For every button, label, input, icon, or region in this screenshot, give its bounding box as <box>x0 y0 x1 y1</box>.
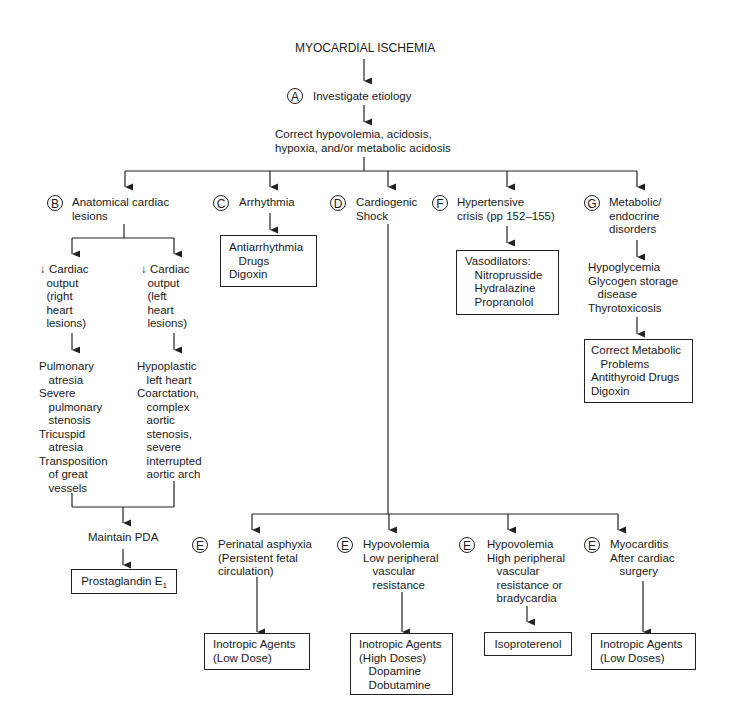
metabolic-treatment-box: Correct Metabolic Problems Antithyroid D… <box>584 339 693 403</box>
shock-type-2-label: Hypovolemia Low peripheral vascular resi… <box>363 538 438 592</box>
left-heart-output: ↓ Cardiac output (left heart lesions) <box>141 263 190 331</box>
step-a-label: Investigate etiology <box>313 90 411 104</box>
step-d-label: Cardiogenic Shock <box>356 196 417 223</box>
left-heart-lesions-list: Hypoplastic left heart Coarctation, comp… <box>137 360 202 482</box>
shock-type-3-label: Hypovolemia High peripheral vascular res… <box>487 538 565 606</box>
shock-type-4-label: Myocarditis After cardiac surgery <box>610 538 675 579</box>
shock-type-4-treatment: Inotropic Agents (Low Doses) <box>592 634 695 665</box>
right-heart-lesions-list: Pulmonary atresia Severe pulmonary steno… <box>39 360 108 495</box>
step-b-label: Anatomical cardiac lesions <box>72 196 169 223</box>
diagram-title: MYOCARDIAL ISCHEMIA <box>295 42 435 56</box>
vasodilators-text: Vasodilators: Nitroprusside Hydralazine … <box>457 251 558 309</box>
vasodilators-box: Vasodilators: Nitroprusside Hydralazine … <box>456 250 559 315</box>
step-g-label: Metabolic/ endocrine disorders <box>609 196 661 237</box>
correct-line-2: hypoxia, and/or metabolic acidosis <box>275 142 451 156</box>
shock-type-2-marker: E <box>337 537 353 553</box>
metabolic-treatment-text: Correct Metabolic Problems Antithyroid D… <box>585 340 692 398</box>
right-heart-output: ↓ Cardiac output (right heart lesions) <box>40 263 89 331</box>
shock-type-1-marker: E <box>192 537 208 553</box>
step-f-label: Hypertensive crisis (pp 152–155) <box>457 196 555 223</box>
shock-type-2-treatment-box: Inotropic Agents (High Doses) Dopamine D… <box>350 633 453 695</box>
maintain-pda: Maintain PDA <box>88 531 158 545</box>
step-f-marker: F <box>432 195 448 211</box>
step-d-marker: D <box>330 195 346 211</box>
shock-type-4-treatment-box: Inotropic Agents (Low Doses) <box>591 633 696 670</box>
shock-type-2-treatment: Inotropic Agents (High Doses) Dopamine D… <box>351 634 452 692</box>
shock-type-1-treatment: Inotropic Agents (Low Dose) <box>205 634 309 665</box>
correct-line-1: Correct hypovolemia, acidosis, <box>275 128 432 142</box>
metabolic-disorders-list: Hypoglycemia Glycogen storage disease Th… <box>588 261 678 315</box>
shock-type-3-marker: E <box>459 537 475 553</box>
step-b-marker: B <box>47 195 63 211</box>
step-g-marker: G <box>584 195 600 211</box>
shock-type-4-marker: E <box>584 537 600 553</box>
prostaglandin-box: Prostaglandin E1 <box>71 569 177 594</box>
shock-type-3-treatment: Isoproterenol <box>485 633 571 655</box>
step-c-marker: C <box>213 195 229 211</box>
prostaglandin-label: Prostaglandin E1 <box>72 570 176 597</box>
step-a-marker: A <box>287 88 303 104</box>
shock-type-3-treatment-box: Isoproterenol <box>484 632 572 656</box>
arrhythmia-treatment-box: Antiarrhythmia Drugs Digoxin <box>220 235 317 287</box>
shock-type-1-treatment-box: Inotropic Agents (Low Dose) <box>204 633 310 670</box>
shock-type-1-label: Perinatal asphyxia (Persistent fetal cir… <box>218 538 312 579</box>
arrhythmia-treatment-text: Antiarrhythmia Drugs Digoxin <box>221 236 316 282</box>
step-c-label: Arrhythmia <box>239 196 295 210</box>
